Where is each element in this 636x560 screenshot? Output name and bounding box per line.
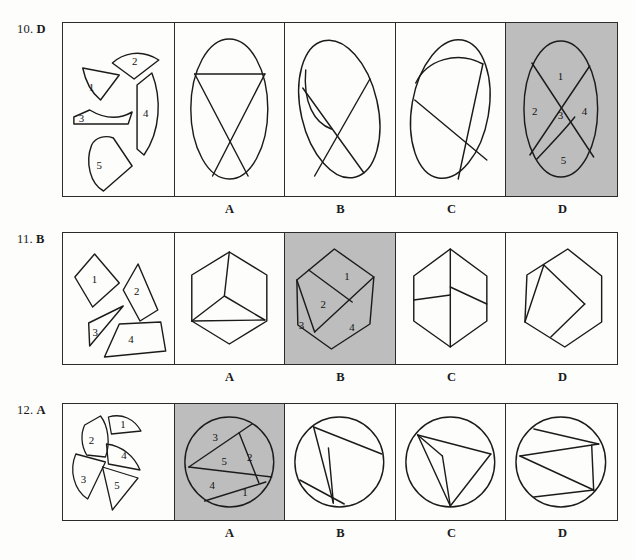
piece-number-4: 4 <box>128 333 134 345</box>
region-number-3: 3 <box>299 319 305 331</box>
option-letter-10-B: B <box>285 202 396 217</box>
pieces-panel-12: 1 2 4 3 5 <box>63 404 175 520</box>
option-panel-11-D[interactable] <box>506 233 617 364</box>
question-label-11: 11. B <box>17 232 45 247</box>
option-figure-12-D <box>506 404 617 520</box>
option-panel-10-C[interactable] <box>396 23 507 196</box>
option-panel-12-D[interactable] <box>506 404 617 520</box>
option-figure-12-B <box>285 404 395 520</box>
option-figure-11-C <box>396 233 506 364</box>
option-panel-12-B[interactable] <box>285 404 396 520</box>
pieces-figure-11: 1 2 3 4 <box>63 233 174 364</box>
pieces-figure-12: 1 2 4 3 5 <box>63 404 174 520</box>
region-number-4: 4 <box>582 105 588 117</box>
option-panel-12-C[interactable] <box>396 404 507 520</box>
option-figure-10-C <box>396 23 506 196</box>
piece-shape-4 <box>104 322 165 357</box>
option-letter-11-D: D <box>507 370 618 385</box>
option-letter-11-B: B <box>285 370 396 385</box>
option-letter-10-C: C <box>396 202 507 217</box>
answer-grid-11: 1 2 3 4 1 <box>62 232 618 365</box>
piece-number-3: 3 <box>79 112 85 124</box>
piece-number-2: 2 <box>132 55 137 67</box>
question-number-12: 12. <box>17 403 33 417</box>
option-figure-12-A: 3 5 2 4 1 <box>175 404 285 520</box>
region-number-3: 3 <box>558 109 564 121</box>
piece-number-4: 4 <box>143 107 149 119</box>
option-panel-10-B[interactable] <box>285 23 396 196</box>
pieces-panel-11: 1 2 3 4 <box>63 233 175 364</box>
region-number-4: 4 <box>209 479 215 491</box>
region-number-2: 2 <box>532 105 537 117</box>
question-row-12: 12. A 1 2 4 3 5 <box>0 399 636 560</box>
option-panel-11-A[interactable] <box>175 233 286 364</box>
option-figure-10-B <box>285 23 395 196</box>
option-panel-10-D[interactable]: 1 2 3 4 5 <box>506 23 617 196</box>
option-panel-10-A[interactable] <box>175 23 286 196</box>
option-panel-11-B[interactable]: 1 2 3 4 <box>285 233 396 364</box>
region-number-2: 2 <box>247 451 252 463</box>
piece-number-1: 1 <box>92 273 97 285</box>
region-number-1: 1 <box>558 70 563 82</box>
answer-grid-10: 1 2 3 4 5 <box>62 22 618 197</box>
piece-shape-5 <box>89 137 132 191</box>
piece-number-5: 5 <box>97 159 103 171</box>
option-figure-11-D <box>506 233 617 364</box>
question-answer-10: D <box>37 22 46 36</box>
option-letter-12-C: C <box>396 526 507 541</box>
region-number-3: 3 <box>212 431 218 443</box>
region-number-5: 5 <box>561 154 567 166</box>
option-figure-11-A <box>175 233 285 364</box>
piece-number-2: 2 <box>134 285 139 297</box>
question-number-10: 10. <box>17 22 33 36</box>
option-figure-10-D: 1 2 3 4 5 <box>506 23 617 196</box>
question-row-10: 10. D 1 2 3 4 5 <box>0 0 636 220</box>
option-letter-12-D: D <box>507 526 618 541</box>
piece-number-5: 5 <box>114 479 120 491</box>
piece-number-3: 3 <box>81 473 87 485</box>
piece-number-3: 3 <box>93 326 99 338</box>
piece-number-1: 1 <box>120 418 125 430</box>
question-number-11: 11. <box>17 232 33 246</box>
piece-shape-5 <box>102 467 138 510</box>
region-number-5: 5 <box>221 455 227 467</box>
option-figure-11-B: 1 2 3 4 <box>285 233 395 364</box>
option-letter-10-A: A <box>174 202 285 217</box>
question-answer-12: A <box>37 403 46 417</box>
question-label-10: 10. D <box>17 22 46 37</box>
option-panel-12-A[interactable]: 3 5 2 4 1 <box>175 404 286 520</box>
piece-shape-2 <box>123 264 158 321</box>
piece-shape-2 <box>82 416 108 457</box>
question-row-11: 11. B 1 2 3 4 <box>0 228 636 388</box>
option-letter-10-D: D <box>507 202 618 217</box>
answer-grid-12: 1 2 4 3 5 3 5 2 4 <box>62 403 618 521</box>
option-letter-11-C: C <box>396 370 507 385</box>
piece-number-1: 1 <box>89 81 94 93</box>
option-figure-12-C <box>396 404 506 520</box>
option-letter-12-B: B <box>285 526 396 541</box>
option-panel-11-C[interactable] <box>396 233 507 364</box>
region-number-2: 2 <box>321 298 326 310</box>
region-number-1: 1 <box>344 270 349 282</box>
region-number-1: 1 <box>242 486 247 498</box>
piece-number-4: 4 <box>121 449 127 461</box>
piece-shape-4 <box>73 454 106 499</box>
pieces-figure-10: 1 2 3 4 5 <box>63 23 174 196</box>
question-label-12: 12. A <box>17 403 46 418</box>
option-letter-11-A: A <box>174 370 285 385</box>
pieces-panel-10: 1 2 3 4 5 <box>63 23 175 196</box>
piece-number-2: 2 <box>89 434 94 446</box>
question-answer-11: B <box>36 232 45 246</box>
region-number-4: 4 <box>349 321 355 333</box>
option-letter-12-A: A <box>174 526 285 541</box>
option-figure-10-A <box>175 23 285 196</box>
